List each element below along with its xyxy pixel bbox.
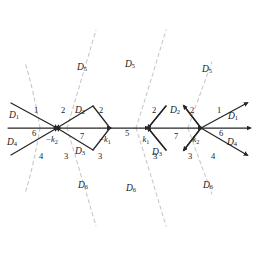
region-label-letter: D bbox=[227, 137, 234, 147]
region-label-D1-left: D1 bbox=[9, 111, 19, 121]
region-label-letter: D bbox=[7, 137, 14, 147]
edge-1-right bbox=[201, 103, 247, 128]
region-label-letter: D bbox=[77, 62, 84, 72]
region-label-D6-left: D6 bbox=[78, 181, 88, 191]
region-label-subscript: 4 bbox=[14, 140, 17, 147]
region-label-D5-center: D5 bbox=[125, 60, 135, 70]
vertex-label-subscript: 1 bbox=[146, 138, 149, 145]
region-label-subscript: 2 bbox=[177, 108, 180, 115]
edge-number-n6-left: 6 bbox=[32, 129, 36, 138]
edge-number-n3-left: 3 bbox=[64, 152, 68, 161]
vertex-label-k1: k1 bbox=[143, 135, 150, 145]
edge-number-n1-right: 1 bbox=[217, 106, 221, 115]
edge-number-n2-right: 2 bbox=[190, 106, 194, 115]
region-label-D2-left: D2 bbox=[75, 106, 85, 116]
region-label-D2-right: D2 bbox=[170, 106, 180, 116]
edge-number-n4-right: 4 bbox=[211, 152, 215, 161]
edge-number-n5-center: 5 bbox=[125, 129, 129, 138]
region-label-subscript: 6 bbox=[133, 186, 136, 193]
vertex-label-subscript: 2 bbox=[55, 138, 58, 145]
region-label-D4-left: D4 bbox=[7, 138, 17, 148]
edge-number-n2-left: 2 bbox=[61, 106, 65, 115]
region-label-subscript: 1 bbox=[16, 113, 19, 120]
region-label-subscript: 1 bbox=[235, 114, 238, 121]
vertex-label-minus-k2: −k2 bbox=[46, 135, 58, 145]
vertex-label-subscript: 1 bbox=[108, 138, 111, 145]
region-label-letter: D bbox=[202, 64, 209, 74]
vertex-label-subscript: 2 bbox=[196, 138, 199, 145]
region-label-letter: D bbox=[125, 59, 132, 69]
region-label-letter: D bbox=[126, 183, 133, 193]
region-label-letter: D bbox=[203, 180, 210, 190]
region-label-letter: D bbox=[75, 105, 82, 115]
edge-number-n3-right: 3 bbox=[188, 152, 192, 161]
region-label-subscript: 3 bbox=[159, 150, 162, 157]
vertex-label-minus-k1: −k1 bbox=[99, 135, 111, 145]
diagram-canvas: D5D5D5D6D6D6D1D4D1D4D2D3D2D3122643375221… bbox=[0, 0, 258, 256]
edge-number-n2-mid-l: 2 bbox=[99, 106, 103, 115]
edge-number-n7-right: 7 bbox=[174, 132, 178, 141]
region-label-subscript: 5 bbox=[84, 65, 87, 72]
region-label-letter: D bbox=[228, 111, 235, 121]
region-label-D3-left: D3 bbox=[75, 147, 85, 157]
edge-number-n3-mid-r: 3 bbox=[153, 152, 157, 161]
region-label-letter: D bbox=[170, 105, 177, 115]
edge-number-n4-left: 4 bbox=[39, 152, 43, 161]
edge-number-n6-right: 6 bbox=[219, 129, 223, 138]
vertex-label-k2: k2 bbox=[193, 135, 200, 145]
region-label-subscript: 2 bbox=[82, 108, 85, 115]
region-label-D1-right: D1 bbox=[228, 112, 238, 122]
edge-number-n2-mid-r: 2 bbox=[152, 106, 156, 115]
region-label-subscript: 6 bbox=[210, 183, 213, 190]
region-label-subscript: 6 bbox=[85, 183, 88, 190]
region-label-subscript: 3 bbox=[82, 149, 85, 156]
region-label-letter: D bbox=[78, 180, 85, 190]
region-label-D5-right: D5 bbox=[202, 65, 212, 75]
edge-number-n7-left: 7 bbox=[80, 132, 84, 141]
region-label-D5-left: D5 bbox=[77, 63, 87, 73]
edge-number-n3-mid-l: 3 bbox=[98, 152, 102, 161]
region-label-subscript: 4 bbox=[234, 140, 237, 147]
edge-2-right-up bbox=[148, 106, 166, 128]
region-label-D6-center: D6 bbox=[126, 184, 136, 194]
region-label-subscript: 5 bbox=[132, 62, 135, 69]
region-label-subscript: 5 bbox=[209, 67, 212, 74]
edge-4-right bbox=[201, 128, 247, 155]
region-label-letter: D bbox=[9, 110, 16, 120]
region-label-D4-right: D4 bbox=[227, 138, 237, 148]
region-label-D6-right: D6 bbox=[203, 181, 213, 191]
region-label-letter: D bbox=[75, 146, 82, 156]
edge-number-n1-left: 1 bbox=[34, 106, 38, 115]
